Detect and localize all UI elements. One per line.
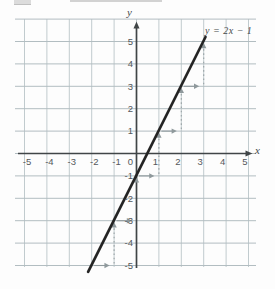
graph-canvas: -5-4-3-2-11234554321-1-2-3-4-50 — [0, 0, 275, 289]
x-tick-label: 1 — [153, 156, 158, 167]
x-tick-label: 5 — [242, 156, 247, 167]
equation-label: y = 2x − 1 — [205, 25, 252, 36]
origin-label: 0 — [128, 156, 133, 167]
run-arrowhead-icon — [194, 84, 199, 89]
function-line — [88, 37, 205, 272]
x-tick-label: -4 — [45, 156, 53, 167]
run-arrowhead-icon — [149, 173, 154, 178]
x-tick-label: 2 — [175, 156, 180, 167]
x-tick-label: 4 — [220, 156, 225, 167]
y-tick-label: 3 — [128, 81, 133, 92]
y-tick-label: 2 — [128, 103, 133, 114]
function-line-group — [88, 37, 205, 272]
x-tick-label: -1 — [112, 156, 120, 167]
x-tick-label: -5 — [23, 156, 31, 167]
y-tick-label: 1 — [128, 125, 133, 136]
y-tick-label: 4 — [128, 58, 133, 69]
y-tick-label: -4 — [125, 237, 133, 248]
y-tick-label: -5 — [125, 260, 133, 271]
slope-annotations — [94, 43, 206, 268]
y-axis-letter-label: y — [127, 6, 132, 18]
y-axis-arrowhead-icon — [134, 22, 140, 29]
y-tick-label: -3 — [125, 215, 133, 226]
y-tick-label: -1 — [125, 170, 133, 181]
x-axis-letter-label: x — [255, 144, 260, 156]
run-arrowhead-icon — [172, 128, 177, 133]
grid — [15, 19, 256, 267]
x-tick-label: -3 — [68, 156, 76, 167]
x-tick-label: 3 — [198, 156, 203, 167]
run-arrowhead-icon — [104, 263, 109, 268]
x-tick-label: -2 — [90, 156, 98, 167]
y-tick-label: 5 — [128, 36, 133, 47]
y-tick-label: -2 — [125, 193, 133, 204]
axes — [18, 22, 253, 269]
graph-figure: -5-4-3-2-11234554321-1-2-3-4-50 y x y = … — [0, 0, 275, 289]
